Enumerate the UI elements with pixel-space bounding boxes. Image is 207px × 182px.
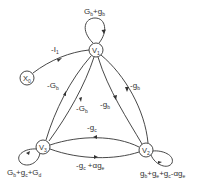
arrow-icon <box>94 155 98 159</box>
arrow-icon <box>26 151 30 155</box>
node-v3: V3 <box>36 140 50 154</box>
edge-v3-v2-top <box>50 138 139 147</box>
arrow-icon <box>63 91 66 96</box>
arrow-icon <box>79 97 82 102</box>
arrow-icon <box>102 30 107 35</box>
label-v1-v3-outer: -Gb <box>47 81 59 91</box>
arrow-icon <box>93 135 97 139</box>
label-self-v2: gb+ge+gc-αge <box>140 169 186 179</box>
label-x0-v1: -I1 <box>51 45 59 55</box>
label-v1-v3-inner: -Gb <box>76 104 88 114</box>
label-self-v1: Gb+gb <box>84 7 105 17</box>
label-v1-v2-outer: -gb <box>130 81 140 91</box>
edge-v1-v2-outer <box>101 55 148 143</box>
arrow-icon <box>125 87 129 92</box>
label-v3-v2-top: -gc <box>87 123 97 133</box>
self-loop-v2 <box>151 151 172 166</box>
label-v1-v2-inner: -gb <box>100 100 110 110</box>
label-self-v3: Gb+gc+Gd <box>7 168 42 178</box>
arrow-icon <box>158 161 162 164</box>
node-v1: V1 <box>89 43 103 57</box>
node-v2: V2 <box>139 143 153 157</box>
self-loop-v1 <box>85 18 104 43</box>
node-x0: X0 <box>20 71 34 85</box>
signal-flow-graph: V1 V2 V3 X0 Gb+gb -I1 -Gb -Gb -gb -gb -g… <box>0 0 207 182</box>
self-loop-v3 <box>19 149 40 165</box>
edge-v1-v3-outer <box>46 56 91 140</box>
label-v2-v3-bottom: -gc +αge <box>76 161 105 171</box>
